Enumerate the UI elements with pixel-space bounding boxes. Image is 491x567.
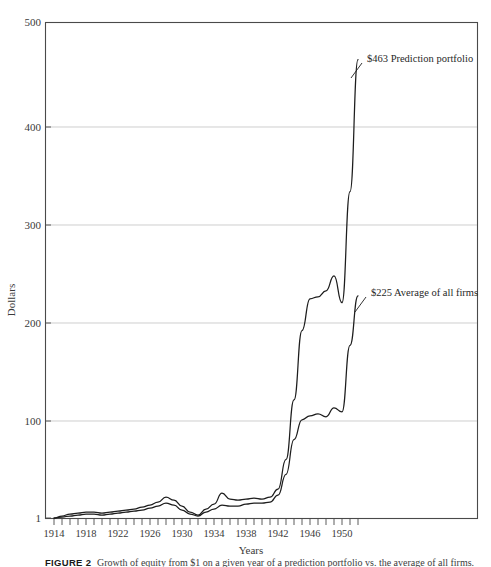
x-tick-label-1934: 1934: [204, 528, 226, 539]
y-tick-label-200: 200: [25, 317, 42, 329]
y-tick-label-100: 100: [25, 415, 42, 427]
x-tick-label-1914: 1914: [44, 528, 66, 539]
x-axis-title: Years: [239, 544, 264, 556]
annotation-average-of-all-firms: $225 Average of all firms: [371, 287, 478, 298]
y-axis-title: Dollars: [5, 284, 17, 316]
y-tick-label-400: 400: [25, 121, 42, 133]
plot-frame: [46, 23, 478, 519]
caption-label: FIGURE 2: [45, 557, 91, 567]
x-tick-label-1930: 1930: [172, 528, 193, 539]
x-tick-label-1918: 1918: [76, 528, 97, 539]
x-tick-label-1938: 1938: [236, 528, 257, 539]
annotation-prediction-portfolio: $463 Prediction portfolio: [367, 53, 473, 64]
series-line-average-of-all-firms: [54, 296, 358, 518]
series-group: [54, 60, 358, 518]
x-tick-label-1942: 1942: [268, 528, 289, 539]
figure-container: 500 400 300 200 100 1: [0, 0, 491, 567]
caption-text: Growth of equity from $1 on a given year…: [97, 557, 474, 567]
y-tick-label-1: 1: [36, 512, 42, 524]
y-axis-tickmarks: [46, 127, 51, 518]
growth-of-equity-chart: 500 400 300 200 100 1: [0, 0, 491, 567]
series-line-prediction-portfolio: [54, 60, 358, 518]
y-tick-label-300: 300: [25, 219, 42, 231]
x-axis-tick-labels: 1914 1918 1922 1926 1930 1934 1938 1942 …: [44, 528, 353, 539]
figure-caption: FIGURE 2 Growth of equity from $1 on a g…: [45, 557, 474, 567]
x-tick-label-1926: 1926: [140, 528, 161, 539]
x-tick-label-1946: 1946: [300, 528, 321, 539]
x-tick-label-1922: 1922: [108, 528, 129, 539]
annotation-leaders: [351, 63, 366, 312]
y-tick-label-500: 500: [25, 16, 42, 28]
x-tick-label-1950: 1950: [332, 528, 353, 539]
gridlines: [46, 127, 477, 421]
y-axis-tick-labels: 500 400 300 200 100 1: [25, 16, 42, 524]
